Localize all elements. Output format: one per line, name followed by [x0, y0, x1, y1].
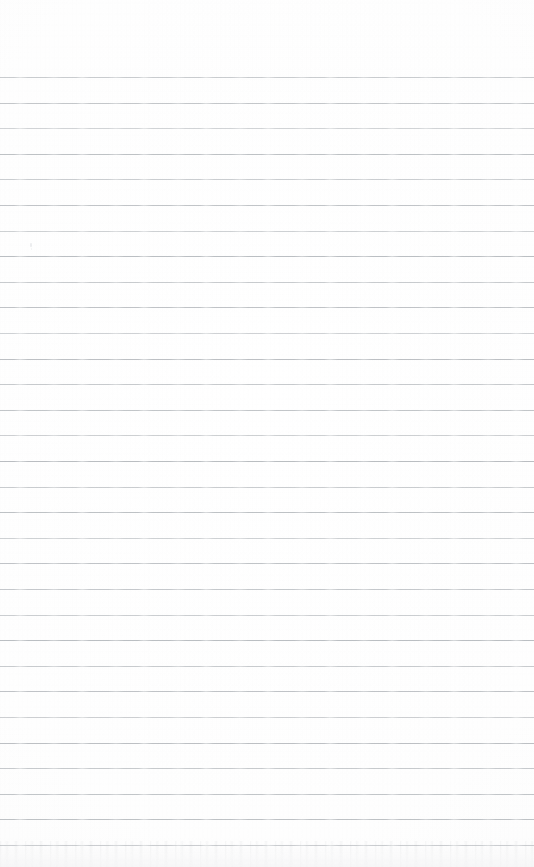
ruled-line — [0, 589, 534, 590]
ruled-line — [0, 205, 534, 206]
ruled-line — [0, 563, 534, 564]
scan-speck — [31, 248, 32, 250]
scan-speck — [30, 243, 32, 247]
ruled-line — [0, 359, 534, 360]
ruled-line — [0, 410, 534, 411]
ruled-line — [0, 538, 534, 539]
ruled-line — [0, 743, 534, 744]
ruled-line — [0, 794, 534, 795]
ruled-line — [0, 103, 534, 104]
ruled-line — [0, 691, 534, 692]
ruled-line — [0, 768, 534, 769]
ruled-line — [0, 461, 534, 462]
ruled-line — [0, 179, 534, 180]
ruled-line — [0, 666, 534, 667]
ruled-line — [0, 487, 534, 488]
ruled-line — [0, 845, 534, 846]
ruled-line — [0, 640, 534, 641]
ruled-line — [0, 128, 534, 129]
ruled-line — [0, 512, 534, 513]
ruled-line — [0, 819, 534, 820]
scanned-page — [0, 0, 534, 867]
ruled-line — [0, 154, 534, 155]
ruled-lines-layer — [0, 0, 534, 867]
ruled-line — [0, 717, 534, 718]
ruled-line — [0, 231, 534, 232]
ruled-line — [0, 256, 534, 257]
ruled-line — [0, 384, 534, 385]
ruled-line — [0, 282, 534, 283]
ruled-line — [0, 615, 534, 616]
ruled-line — [0, 77, 534, 78]
ruled-line — [0, 435, 534, 436]
ruled-line — [0, 307, 534, 308]
ruled-line — [0, 333, 534, 334]
